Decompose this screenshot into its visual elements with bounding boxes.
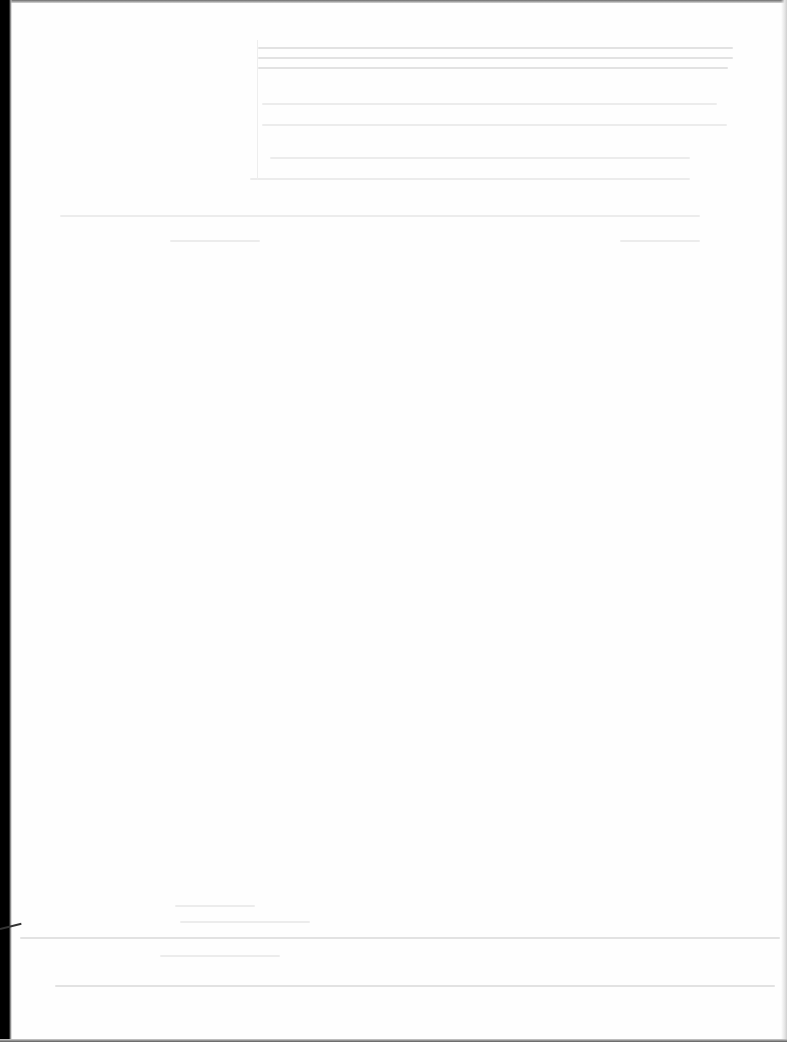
show-through-line <box>160 955 280 957</box>
blank-page <box>0 0 787 1042</box>
show-through-line <box>60 215 700 217</box>
scan-edge-top <box>0 0 787 3</box>
show-through-rule <box>257 40 258 180</box>
show-through-line <box>55 985 775 987</box>
show-through-line <box>258 57 733 59</box>
show-through-line <box>262 103 717 105</box>
show-through-line <box>262 124 727 126</box>
show-through-line <box>250 178 690 180</box>
show-through-line <box>175 905 255 907</box>
show-through-line <box>20 937 780 939</box>
show-through-line <box>258 67 728 69</box>
scan-edge-right <box>781 0 787 1042</box>
show-through-line <box>620 240 700 242</box>
show-through-line <box>270 157 690 159</box>
show-through-line <box>180 921 310 923</box>
show-through-line <box>258 47 733 49</box>
show-through-line <box>170 240 260 242</box>
scan-edge-left <box>0 0 12 1042</box>
